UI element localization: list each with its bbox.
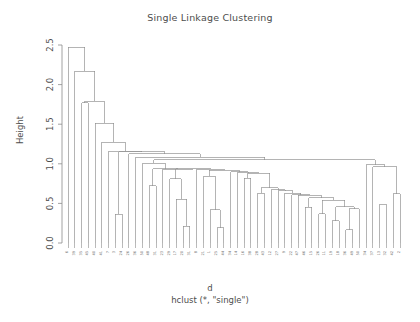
leaf-label: 24	[119, 250, 123, 255]
leaf-label: 7	[106, 251, 110, 253]
leaf-label: 38	[248, 250, 252, 255]
y-tick-label: 1.0	[45, 157, 55, 171]
leaf-label: 35	[79, 251, 83, 256]
leaf-label: 47	[295, 251, 299, 256]
leaf-label: 15	[309, 251, 313, 256]
leaf-label: 44	[221, 250, 225, 255]
leaf-label: 36	[343, 250, 347, 255]
leaf-label: 50	[356, 250, 360, 255]
leaf-label: 9	[282, 250, 286, 253]
leaf-label: 43	[261, 251, 265, 256]
leaf-label: 3	[112, 251, 116, 253]
leaf-label: 8	[194, 250, 198, 253]
leaf-label: 41	[99, 251, 103, 256]
leaf-label: 29	[167, 250, 171, 255]
y-axis: 2.5 2.0 1.5 1.0 0.5 0.0	[45, 38, 62, 250]
leaf-label: 12	[268, 251, 272, 256]
leaf-label: 25	[214, 251, 218, 256]
y-tick-label: 0.0	[45, 236, 55, 250]
leaf-label: 26	[126, 250, 130, 255]
leaf-label: 1	[207, 251, 211, 253]
leaf-label: 11	[322, 251, 326, 256]
leaf-label: 31	[187, 251, 191, 256]
dendrogram-canvas: 2.5 2.0 1.5 1.0 0.5 0.0 6393545404173242…	[0, 0, 420, 322]
dendrogram-tree	[68, 47, 400, 243]
leaf-label: 19	[329, 250, 333, 255]
leaf-label: 46	[302, 250, 306, 255]
leaf-label: 45	[85, 251, 89, 256]
dendrogram-plot: Single Linkage Clustering Height d hclus…	[0, 0, 420, 322]
leaf-label: 28	[255, 250, 259, 255]
leaf-label: 21	[201, 251, 205, 256]
leaf-label: 17	[173, 251, 177, 256]
leaf-label: 50	[140, 250, 144, 255]
leaf-label: 16	[241, 250, 245, 255]
leaf-label: 36	[133, 250, 137, 255]
y-tick-label: 2.0	[45, 78, 55, 92]
leaf-label: 27	[275, 251, 279, 256]
leaf-label: 6	[65, 250, 69, 253]
leaf-label: 39	[72, 250, 76, 255]
leaf-label: 37	[370, 251, 374, 256]
leaf-label: 34	[363, 250, 367, 255]
leaf-label: 32	[383, 251, 387, 256]
leaf-label: 31	[153, 251, 157, 256]
leaf-label: 20	[180, 250, 184, 255]
y-tick-label: 2.5	[45, 38, 55, 52]
leaf-label: 34	[228, 250, 232, 255]
leaf-label: 26	[316, 250, 320, 255]
y-tick-label: 0.5	[45, 197, 55, 211]
leaf-label: 48	[146, 250, 150, 255]
leaf-label: 22	[289, 251, 293, 256]
leaf-label: 42	[390, 251, 394, 256]
y-tick-label: 1.5	[45, 117, 55, 131]
leaf-label: 40	[92, 250, 96, 255]
leaf-label: 2	[397, 251, 401, 253]
leaf-label: 13	[377, 251, 381, 256]
leaf-labels: 6393545404173242636504831232917203182112…	[65, 250, 401, 255]
leaf-label: 14	[234, 250, 238, 255]
leaf-label: 23	[160, 251, 164, 256]
leaf-tick-marks	[68, 243, 400, 248]
leaf-label: 18	[336, 250, 340, 255]
leaf-label: 49	[350, 250, 354, 255]
